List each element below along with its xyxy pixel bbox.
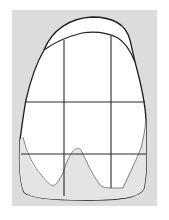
tooth-diagram xyxy=(0,0,169,220)
